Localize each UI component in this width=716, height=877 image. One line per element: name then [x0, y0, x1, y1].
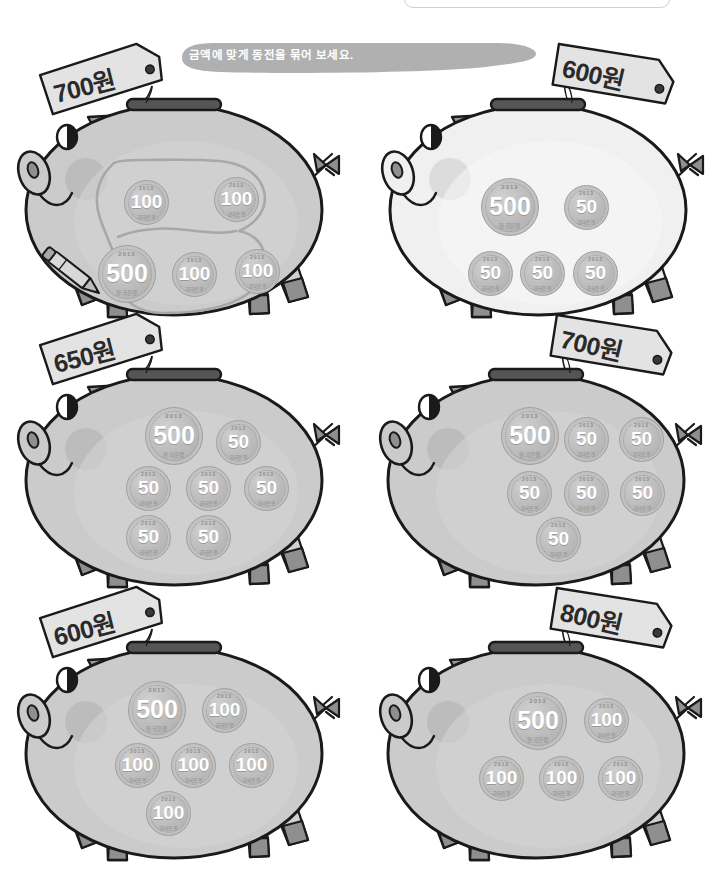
- coin-denomination: 100: [479, 767, 524, 788]
- coin-bank-name: 한국은행: [146, 825, 191, 831]
- coin-bank-name: 한국은행: [214, 211, 259, 217]
- coin-bank-name: 한국은행: [115, 777, 160, 783]
- coin-denomination: 50: [536, 528, 581, 549]
- coin-50[interactable]: 2013 50 한국은행: [126, 466, 171, 511]
- coin-bank-name: 한국은행: [468, 285, 513, 291]
- coin-100[interactable]: 2013 100 한국은행: [202, 688, 247, 733]
- coin-bank-name: 한국은행: [126, 500, 171, 506]
- coin-bank-name: 한국은행: [564, 505, 609, 511]
- coin-100[interactable]: 2013 100 한국은행: [146, 791, 191, 836]
- coin-year: 2013: [128, 687, 186, 693]
- coin-50[interactable]: 2013 50 한국은행: [536, 517, 581, 562]
- coin-500[interactable]: 2013 500 한국은행: [145, 407, 203, 465]
- coin-500[interactable]: 2013 500 한국은행: [509, 692, 567, 750]
- coin-50[interactable]: 2013 50 한국은행: [564, 417, 609, 462]
- coin-bank-name: 한국은행: [564, 451, 609, 457]
- coin-bank-name: 한국은행: [202, 722, 247, 728]
- coin-bank-name: 한국은행: [564, 219, 609, 225]
- coin-100[interactable]: 2013 100 한국은행: [539, 756, 584, 801]
- coin-50[interactable]: 2013 50 한국은행: [619, 417, 664, 462]
- coin-denomination: 50: [186, 477, 231, 498]
- coin-denomination: 50: [244, 477, 289, 498]
- coin-50[interactable]: 2013 50 한국은행: [468, 251, 513, 296]
- coin-denomination: 50: [564, 428, 609, 449]
- coin-denomination: 50: [216, 431, 261, 452]
- coin-denomination: 500: [145, 421, 203, 449]
- coin-50[interactable]: 2013 50 한국은행: [564, 471, 609, 516]
- coin-bank-name: 한국은행: [536, 551, 581, 557]
- coin-denomination: 100: [214, 188, 259, 209]
- coin-100[interactable]: 2013 100 한국은행: [229, 743, 274, 788]
- coin-denomination: 50: [186, 526, 231, 547]
- coin-bank-name: 한국은행: [507, 505, 552, 511]
- coin-bank-name: 한국은행: [145, 451, 203, 459]
- coin-500[interactable]: 2013 500 한국은행: [128, 681, 186, 739]
- coin-denomination: 500: [501, 421, 559, 449]
- coin-500[interactable]: 2013 500 한국은행: [501, 407, 559, 465]
- coin-denomination: 100: [598, 767, 643, 788]
- coin-denomination: 50: [573, 262, 618, 283]
- coin-50[interactable]: 2013 50 한국은행: [573, 251, 618, 296]
- coin-50[interactable]: 2013 50 한국은행: [620, 471, 665, 516]
- coin-bank-name: 한국은행: [620, 505, 665, 511]
- coin-denomination: 100: [172, 263, 217, 284]
- coin-100[interactable]: 2013 100 한국은행: [171, 743, 216, 788]
- coin-50[interactable]: 2013 50 한국은행: [186, 515, 231, 560]
- coin-bank-name: 한국은행: [481, 222, 539, 230]
- coin-50[interactable]: 2013 50 한국은행: [126, 515, 171, 560]
- coin-denomination: 100: [235, 260, 280, 281]
- coin-year: 2013: [145, 413, 203, 419]
- coin-denomination: 100: [124, 191, 169, 212]
- coin-bank-name: 한국은행: [124, 214, 169, 220]
- coin-100[interactable]: 2013 100 한국은행: [235, 249, 280, 294]
- coin-100[interactable]: 2013 100 한국은행: [479, 756, 524, 801]
- coin-denomination: 50: [620, 482, 665, 503]
- coin-denomination: 500: [128, 695, 186, 723]
- coin-bank-name: 한국은행: [235, 283, 280, 289]
- coin-denomination: 50: [507, 482, 552, 503]
- coin-100[interactable]: 2013 100 한국은행: [172, 252, 217, 297]
- coin-bank-name: 한국은행: [573, 285, 618, 291]
- coin-50[interactable]: 2013 50 한국은행: [564, 185, 609, 230]
- coin-100[interactable]: 2013 100 한국은행: [115, 743, 160, 788]
- coin-bank-name: 한국은행: [171, 777, 216, 783]
- coin-100[interactable]: 2013 100 한국은행: [584, 698, 629, 743]
- coin-100[interactable]: 2013 100 한국은행: [124, 180, 169, 225]
- coin-bank-name: 한국은행: [186, 549, 231, 555]
- coin-bank-name: 한국은행: [216, 454, 261, 460]
- coin-year: 2013: [501, 413, 559, 419]
- top-frame-partial: [404, 0, 670, 8]
- coin-denomination: 50: [468, 262, 513, 283]
- coin-bank-name: 한국은행: [244, 500, 289, 506]
- coin-bank-name: 한국은행: [584, 732, 629, 738]
- coin-denomination: 50: [564, 482, 609, 503]
- coin-denomination: 100: [539, 767, 584, 788]
- coin-bank-name: 한국은행: [479, 790, 524, 796]
- coin-year: 2013: [509, 698, 567, 704]
- coin-denomination: 50: [126, 526, 171, 547]
- worksheet-page: 금액에 맞게 동전을 묶어 보세요.: [0, 0, 716, 877]
- coin-100[interactable]: 2013 100 한국은행: [214, 177, 259, 222]
- coin-500[interactable]: 2013 500 한국은행: [98, 245, 156, 303]
- coin-50[interactable]: 2013 50 한국은행: [507, 471, 552, 516]
- coin-denomination: 50: [564, 196, 609, 217]
- coin-50[interactable]: 2013 50 한국은행: [186, 466, 231, 511]
- coin-50[interactable]: 2013 50 한국은행: [216, 420, 261, 465]
- coin-100[interactable]: 2013 100 한국은행: [598, 756, 643, 801]
- coin-500[interactable]: 2013 500 한국은행: [481, 178, 539, 236]
- coin-50[interactable]: 2013 50 한국은행: [520, 251, 565, 296]
- coin-denomination: 50: [126, 477, 171, 498]
- coin-bank-name: 한국은행: [598, 790, 643, 796]
- coin-denomination: 100: [171, 754, 216, 775]
- coin-bank-name: 한국은행: [509, 736, 567, 744]
- coin-bank-name: 한국은행: [128, 725, 186, 733]
- coin-50[interactable]: 2013 50 한국은행: [244, 466, 289, 511]
- coin-bank-name: 한국은행: [501, 451, 559, 459]
- coin-denomination: 100: [115, 754, 160, 775]
- coin-denomination: 100: [202, 699, 247, 720]
- coin-bank-name: 한국은행: [539, 790, 584, 796]
- coin-denomination: 50: [520, 262, 565, 283]
- coin-denomination: 500: [481, 192, 539, 220]
- coin-denomination: 100: [584, 709, 629, 730]
- coin-year: 2013: [98, 251, 156, 257]
